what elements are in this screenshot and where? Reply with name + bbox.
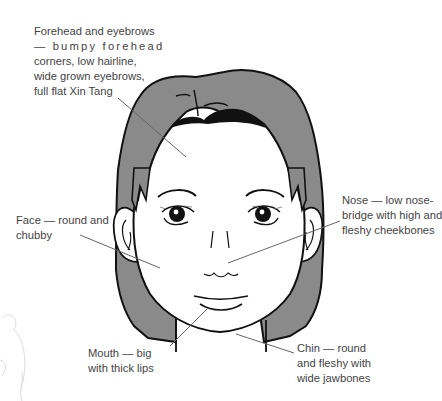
annotation-line: full flat Xin Tang bbox=[34, 84, 164, 99]
annotation-line: Chin — round bbox=[297, 341, 371, 356]
annotation-line: with thick lips bbox=[88, 361, 154, 376]
annotation-chin: Chin — round and fleshy with wide jawbon… bbox=[297, 341, 371, 386]
annotation-line: Nose — low nose- bbox=[342, 193, 442, 208]
annotation-line: and fleshy with bbox=[297, 356, 371, 371]
annotation-forehead: Forehead and eyebrows — bumpy forehead c… bbox=[34, 24, 164, 99]
annotation-line: Forehead and eyebrows bbox=[34, 24, 164, 39]
annotation-mouth: Mouth — big with thick lips bbox=[88, 346, 154, 376]
annotation-line: corners, low hairline, bbox=[34, 54, 164, 69]
annotation-line: Face — round and bbox=[16, 213, 109, 228]
annotation-nose: Nose — low nose- bridge with high and fl… bbox=[342, 193, 442, 238]
annotation-line: wide jawbones bbox=[297, 371, 371, 386]
annotation-line: chubby bbox=[16, 228, 109, 243]
annotation-line: bridge with high and bbox=[342, 208, 442, 223]
annotation-line: — bumpy forehead bbox=[34, 39, 164, 54]
annotation-face: Face — round and chubby bbox=[16, 213, 109, 243]
annotation-line: Mouth — big bbox=[88, 346, 154, 361]
annotation-line: wide grown eyebrows, bbox=[34, 69, 164, 84]
ghost-sketch bbox=[0, 315, 25, 401]
annotation-line: fleshy cheekbones bbox=[342, 223, 442, 238]
